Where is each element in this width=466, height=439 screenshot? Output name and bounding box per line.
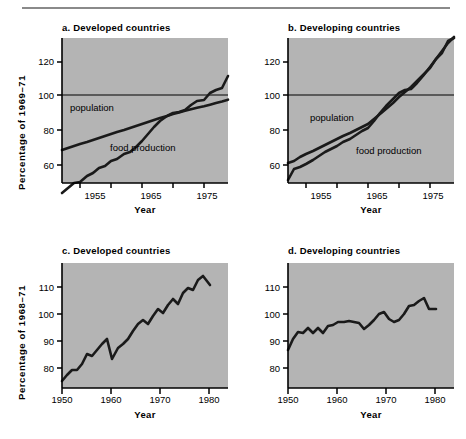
panel-d-xtick-1960: 1960 [317,394,357,405]
panel-b-label-food-production: food production [356,145,422,156]
panel-c-plot [62,263,228,388]
panel-a-plot: population food production [62,38,228,183]
panel-c-ytick-90: 90 [22,336,54,347]
panel-a-ytick-120: 120 [22,56,54,67]
panel-d-title: d. Developing countries [288,245,400,256]
panel-c-xtick-1980: 1980 [189,394,229,405]
panel-d-xlabel: Year [321,409,421,420]
panel-c-xtick-1950: 1950 [42,394,82,405]
panel-d-plot [288,263,454,388]
panel-d-ytick-90: 90 [248,336,280,347]
panel-b-label-population: population [310,112,354,123]
panel-a-xtick-1975: 1975 [187,190,227,201]
panel-b-ytick-100: 100 [248,90,280,101]
panel-c-xtick-1960: 1960 [91,394,131,405]
panel-c-xlabel: Year [95,409,195,420]
panel-a-xtick-1965: 1965 [131,190,171,201]
panel-b-xtick-1965: 1965 [357,190,397,201]
panel-b-xtick-1955: 1955 [301,190,341,201]
panel-b-ytick-80: 80 [248,125,280,136]
panel-b-xlabel: Year [321,204,421,215]
panel-a-xtick-1955: 1955 [75,190,115,201]
panel-c-ytick-110: 110 [22,282,54,293]
panel-a-title: a. Developed countries [62,22,170,33]
panel-a-ytick-60: 60 [22,160,54,171]
panel-b-ytick-60: 60 [248,160,280,171]
panel-a-ytick-80: 80 [22,125,54,136]
panel-d-ytick-110: 110 [248,282,280,293]
panel-a-xlabel: Year [95,204,195,215]
panel-d-xtick-1970: 1970 [366,394,406,405]
panel-a-label-food-production: food production [110,142,176,153]
panel-d-plot-bg [288,263,454,388]
panel-b-xtick-1975: 1975 [413,190,453,201]
panel-c-ytick-100: 100 [22,309,54,320]
panel-d-ytick-80: 80 [248,363,280,374]
header-rule [22,7,450,9]
panel-b-ytick-120: 120 [248,56,280,67]
panel-b-plot: population food production [288,38,454,183]
panel-c-ytick-80: 80 [22,363,54,374]
panel-a-label-population: population [70,102,114,113]
panel-b-title: b. Developing countries [288,22,400,33]
panel-d-xtick-1980: 1980 [415,394,455,405]
panel-d-xtick-1950: 1950 [268,394,308,405]
panel-d-ytick-100: 100 [248,309,280,320]
panel-c-plot-bg [62,263,228,388]
panel-c-title: c. Developed countries [62,245,170,256]
panel-a-ytick-100: 100 [22,90,54,101]
panel-c-xtick-1970: 1970 [140,394,180,405]
